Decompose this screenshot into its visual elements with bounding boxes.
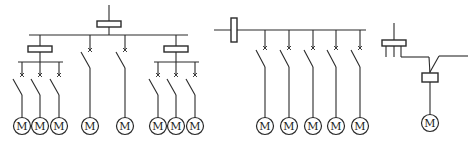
group-chain: M: [382, 23, 468, 132]
svg-text:M: M: [307, 120, 318, 133]
motor: M: [117, 118, 134, 135]
svg-text:M: M: [259, 120, 270, 133]
motor: M: [328, 118, 345, 135]
group-trunk: M M M M M: [214, 18, 369, 135]
motor: M: [352, 118, 369, 135]
branch-r2: [167, 62, 178, 118]
svg-text:M: M: [330, 120, 341, 133]
svg-text:M: M: [84, 120, 95, 133]
svg-text:M: M: [16, 120, 27, 133]
branch-r1: [149, 62, 160, 118]
trunk-branch: [256, 30, 267, 118]
chain-box-upper: [382, 40, 406, 46]
trunk-branch: [327, 30, 338, 118]
motor: M: [32, 118, 49, 135]
trunk-box: [231, 18, 237, 42]
svg-text:M: M: [283, 120, 294, 133]
branch-direct-1: [81, 35, 92, 118]
trunk-branch: [304, 30, 315, 118]
svg-text:M: M: [152, 120, 163, 133]
svg-text:M: M: [119, 120, 130, 133]
main-distribution-box: [97, 21, 121, 27]
motor: M: [187, 118, 204, 135]
motor: M: [14, 118, 31, 135]
motor: M: [422, 115, 439, 132]
sub-box-left: [28, 46, 52, 52]
chain-box-lower: [422, 73, 438, 82]
motor: M: [51, 118, 68, 135]
trunk-branch: [280, 30, 291, 118]
svg-text:M: M: [189, 120, 200, 133]
group-radial: M M M M M M M M: [13, 5, 204, 135]
svg-text:M: M: [53, 120, 64, 133]
branch-l1: [13, 62, 24, 118]
motor: M: [281, 118, 298, 135]
branch-direct-2: [116, 35, 127, 118]
motor: M: [257, 118, 274, 135]
svg-text:M: M: [34, 120, 45, 133]
motor: M: [168, 118, 185, 135]
svg-text:M: M: [424, 117, 435, 130]
trunk-branch: [351, 30, 362, 118]
motor: M: [82, 118, 99, 135]
sub-box-right: [164, 46, 188, 52]
motor: M: [150, 118, 167, 135]
branch-r3: [186, 62, 197, 118]
distribution-diagram: M M M M M M M M: [0, 0, 468, 142]
motor: M: [305, 118, 322, 135]
branch-l3: [50, 62, 61, 118]
svg-text:M: M: [354, 120, 365, 133]
branch-l2: [31, 62, 42, 118]
svg-text:M: M: [170, 120, 181, 133]
